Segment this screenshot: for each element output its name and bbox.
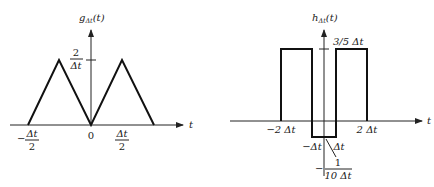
left-tick-neg-num: Δt (25, 128, 38, 139)
left-peak-label-num: 2 (73, 47, 79, 58)
right-tick-pos-two: 2 Δt (356, 124, 379, 135)
right-tick-neg-two: −2 Δt (266, 124, 296, 135)
left-tick-pos-den: 2 (119, 141, 125, 152)
right-low-label-den: 10 Δt (324, 170, 352, 181)
right-top-label: 3/5 Δt (333, 36, 364, 47)
right-function-label: hΔt(t) (312, 12, 338, 25)
left-x-axis-label: t (189, 119, 194, 130)
right-tick-pos-one: Δt (332, 141, 345, 152)
left-peak-label-den: Δt (69, 60, 82, 71)
right-low-label-num: 1 (335, 157, 341, 168)
right-x-axis-label: t (427, 115, 432, 126)
left-figure: gΔt(t) t 2 Δt − Δt 2 0 Δt 2 (10, 12, 194, 152)
left-function-label: gΔt(t) (79, 12, 105, 25)
diagram-canvas: gΔt(t) t 2 Δt − Δt 2 0 Δt 2 hΔt(t) t 3/5… (0, 0, 434, 187)
left-tick-neg-sign: − (17, 133, 25, 144)
right-tick-neg-one: −Δt (302, 141, 323, 152)
left-tick-zero: 0 (88, 130, 94, 141)
right-figure: hΔt(t) t 3/5 Δt −2 Δt 2 Δt −Δt Δt − 1 10… (230, 12, 432, 181)
right-low-label-sign: − (315, 163, 323, 174)
left-tick-pos-num: Δt (115, 128, 128, 139)
left-tick-neg-den: 2 (29, 141, 35, 152)
